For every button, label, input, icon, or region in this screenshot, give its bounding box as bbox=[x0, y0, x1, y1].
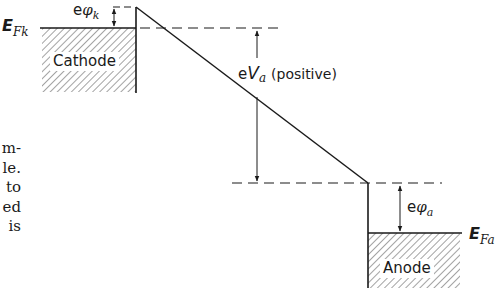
body-text-line: to bbox=[0, 178, 21, 198]
fermi-cathode-label: EFk bbox=[2, 18, 29, 34]
work-function-anode-label: eφa bbox=[407, 199, 433, 215]
anode-label: Anode bbox=[380, 259, 434, 278]
body-text-line: m- bbox=[0, 139, 21, 159]
fermi-anode-label: EFa bbox=[469, 226, 495, 242]
body-text-line: is bbox=[0, 217, 21, 237]
work-function-cathode-label: eφk bbox=[73, 2, 99, 18]
potential-slope bbox=[136, 7, 368, 183]
cathode-label: Cathode bbox=[50, 52, 119, 71]
body-text-line: ed bbox=[0, 198, 21, 218]
anode-voltage-label: eVa(positive) bbox=[238, 65, 337, 82]
cathode-block bbox=[40, 7, 136, 93]
body-text-fragments: m- le. to ed is bbox=[0, 139, 21, 237]
body-text-line: le. bbox=[0, 159, 21, 179]
energy-diagram bbox=[0, 0, 500, 288]
